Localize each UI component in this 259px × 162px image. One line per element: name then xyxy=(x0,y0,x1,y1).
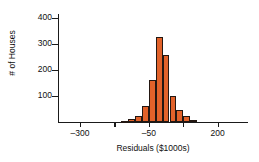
histogram-bar xyxy=(190,120,197,122)
histogram-bar xyxy=(142,106,149,122)
histogram-bars xyxy=(0,0,259,162)
x-axis-title: Residuals ($1000s) xyxy=(58,143,248,153)
histogram-figure: 100200300400 –300–50200 # of Houses Resi… xyxy=(0,0,259,162)
histogram-bar xyxy=(170,96,177,123)
histogram-bar xyxy=(149,80,156,122)
y-axis-title: # of Houses xyxy=(7,16,17,90)
histogram-bar xyxy=(135,116,142,122)
histogram-bar xyxy=(163,55,170,122)
histogram-bar xyxy=(121,121,128,123)
histogram-bar xyxy=(128,119,135,122)
histogram-bar xyxy=(176,110,183,122)
histogram-bar xyxy=(183,116,190,122)
